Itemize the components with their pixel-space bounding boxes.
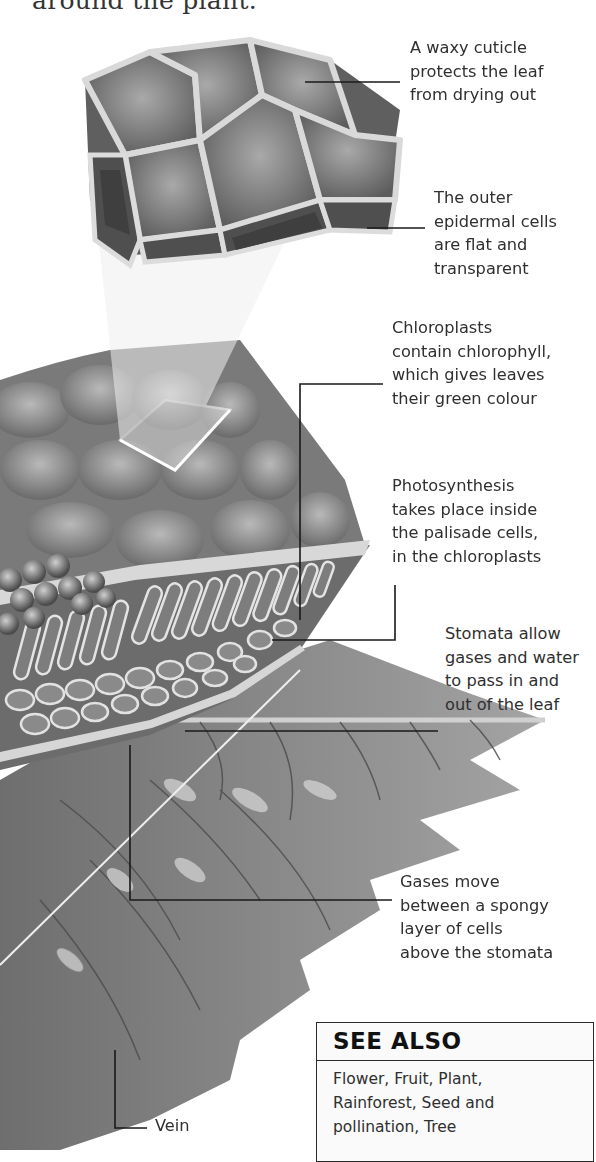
label-spongy-layer: Gases move between a spongy layer of cel… [400, 870, 553, 964]
label-outer-epidermal-cells: The outer epidermal cells are flat and t… [434, 186, 557, 280]
label-chloroplasts: Chloroplasts contain chlorophyll, which … [392, 316, 551, 410]
see-also-links[interactable]: Flower, Fruit, Plant, Rainforest, Seed a… [317, 1061, 593, 1139]
label-stomata: Stomata allow gases and water to pass in… [445, 622, 579, 716]
see-also-box: SEE ALSO Flower, Fruit, Plant, Rainfores… [316, 1022, 594, 1162]
see-also-title: SEE ALSO [317, 1023, 593, 1061]
magnified-epidermis-block [85, 40, 400, 265]
label-waxy-cuticle: A waxy cuticle protects the leaf from dr… [410, 36, 543, 107]
label-vein: Vein [155, 1114, 190, 1138]
label-photosynthesis: Photosynthesis takes place inside the pa… [392, 474, 541, 568]
